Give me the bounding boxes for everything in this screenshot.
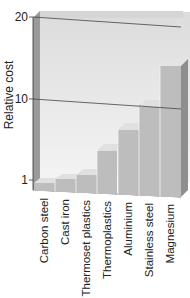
- x-label-magnesium: Magnesium: [164, 204, 176, 263]
- top-edge: [33, 11, 183, 18]
- x-label-stainless-steel: Stainless steel: [143, 203, 155, 277]
- x-label-thermoplastics: Thermoplastics: [101, 201, 113, 279]
- relative-cost-bar-chart: 20 10 1 Relative cost: [0, 0, 190, 298]
- bar-magnesium: [160, 59, 188, 197]
- x-label-thermoset-plastics: Thermoset plastics: [80, 200, 92, 297]
- left-wall: [33, 11, 40, 190]
- x-label-aluminium: Aluminium: [122, 202, 134, 256]
- x-label-carbon-steel: Carbon steel: [38, 198, 50, 263]
- x-label-cast-iron: Cast iron: [59, 199, 71, 245]
- y-axis-label: Relative cost: [2, 60, 16, 129]
- y-tick-1: 1: [21, 173, 28, 187]
- x-tick-labels: Carbon steel Cast iron Thermoset plastic…: [38, 198, 176, 297]
- y-tick-10: 10: [15, 92, 29, 106]
- y-tick-20: 20: [15, 10, 29, 24]
